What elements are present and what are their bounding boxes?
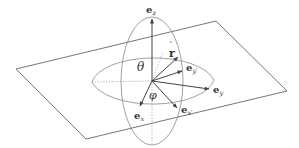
r-arrow: [152, 57, 178, 81]
theta-label: θ: [137, 60, 145, 74]
eyp-label: ey′: [186, 62, 198, 75]
exp-label: ex′: [181, 104, 193, 117]
ez-label: ez: [146, 4, 156, 17]
r-hat-mark: ˜: [169, 41, 173, 49]
ex-label: ex: [134, 110, 144, 123]
dotted-axis-horizontal: [92, 81, 152, 82]
spherical-coordinates-diagram: ez θ r ˜ ey′ ey φ ex′ ex: [0, 0, 299, 148]
eyp-arrow: [152, 71, 182, 81]
phi-label: φ: [149, 89, 157, 102]
ey-arrow: [152, 81, 209, 89]
ey-label: ey: [213, 84, 223, 97]
dotted-theta-guide: [152, 52, 163, 81]
